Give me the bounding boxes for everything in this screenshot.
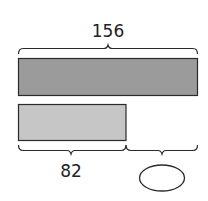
part-brace — [19, 145, 127, 154]
answer-blank-ellipse[interactable] — [140, 165, 185, 191]
total-bar — [19, 59, 198, 96]
total-label: 156 — [92, 21, 124, 41]
bar-model-diagram: 156 82 — [0, 0, 208, 201]
unknown-brace — [126, 145, 198, 154]
top-brace — [19, 45, 198, 54]
part-label: 82 — [60, 161, 82, 181]
part-bar — [19, 105, 127, 141]
